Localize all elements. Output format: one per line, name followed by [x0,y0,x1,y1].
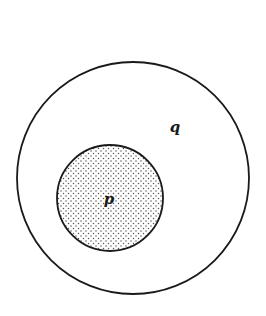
set-q-label: q [170,118,181,136]
euler-diagram: q p [0,0,266,316]
set-p-label: p [104,190,115,208]
